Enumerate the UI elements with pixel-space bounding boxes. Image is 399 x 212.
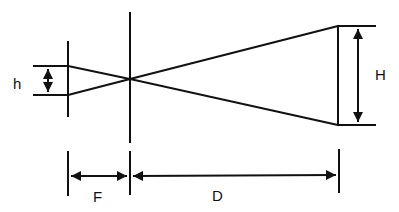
- ray-small-top: [68, 66, 130, 79]
- large-height-label: H: [375, 66, 386, 83]
- distance-label: D: [212, 187, 223, 204]
- small-height-label: h: [13, 75, 21, 92]
- ray-large-bottom: [130, 79, 338, 125]
- ray-small-bottom: [68, 79, 130, 95]
- optics-diagram: h H F D: [0, 0, 399, 212]
- ray-large-top: [130, 26, 338, 79]
- focal-distance-label: F: [93, 188, 102, 205]
- distance-arrow: [134, 175, 335, 176]
